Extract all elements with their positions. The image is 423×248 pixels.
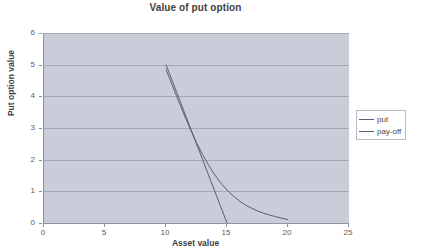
x-tick-mark [43,224,44,227]
x-tick-label: 25 [337,229,359,237]
y-tick-label: 4 [17,92,35,100]
x-tick-mark [165,224,166,227]
x-tick-label: 10 [154,229,176,237]
y-tick-label: 6 [17,29,35,37]
x-tick-label: 0 [32,229,54,237]
y-tick-mark [39,65,42,66]
series-lines [44,33,349,223]
y-tick-mark [39,96,42,97]
y-tick-mark [39,191,42,192]
y-tick-label: 3 [17,124,35,132]
legend-entry-payoff[interactable]: pay-off [359,126,405,137]
y-tick-mark [39,128,42,129]
x-axis-title: Asset value [43,238,348,248]
y-tick-mark [39,33,42,34]
legend-swatch-put-icon [359,119,374,120]
y-tick-label: 0 [17,219,35,227]
plot-area [43,33,349,224]
y-tick-mark [39,160,42,161]
x-tick-mark [287,224,288,227]
legend-entry-put[interactable]: put [359,114,405,125]
x-tick-mark [348,224,349,227]
legend-label-payoff: pay-off [377,127,401,136]
series-line-put [166,69,288,219]
series-line-pay-off [166,65,227,223]
chart-title: Value of put option [43,2,348,13]
x-tick-label: 15 [215,229,237,237]
y-tick-label: 1 [17,187,35,195]
x-tick-mark [226,224,227,227]
legend-swatch-payoff-icon [359,131,374,132]
x-tick-label: 20 [276,229,298,237]
x-tick-mark [104,224,105,227]
y-axis-title: Put option value [6,28,16,138]
y-tick-mark [39,223,42,224]
chart-legend: put pay-off [356,110,406,140]
legend-label-put: put [377,115,388,124]
y-tick-label: 5 [17,61,35,69]
y-tick-label: 2 [17,156,35,164]
chart-container: Value of put option Put option value 012… [0,0,423,248]
x-tick-label: 5 [93,229,115,237]
